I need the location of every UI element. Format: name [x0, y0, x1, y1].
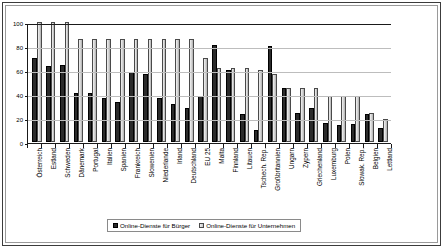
chart-screenshot: 020406080100 ÖsterreichEstlandSchwedenDä…	[0, 0, 443, 248]
legend-swatch-icon	[199, 223, 204, 228]
bar-group	[210, 24, 224, 142]
x-tick-label: Italien	[107, 148, 113, 165]
bar-group	[85, 24, 99, 142]
bar-group	[127, 24, 141, 142]
x-tick-label: Großbritannien	[275, 148, 281, 191]
bar-business	[217, 68, 222, 142]
gridline-60	[28, 72, 391, 73]
bar-business	[245, 68, 250, 142]
bar-business	[383, 119, 388, 142]
x-tick-label: EU 25	[205, 148, 211, 166]
x-tick-label: Estland	[51, 148, 57, 169]
bar-group	[307, 24, 321, 142]
bar-business	[106, 39, 111, 142]
bar-business	[258, 70, 263, 142]
bar-group	[72, 24, 86, 142]
x-tick-label: Schweden	[65, 148, 71, 178]
x-tick-label: Österreich	[37, 148, 43, 177]
x-tick-label: Slowak. Rep.	[359, 148, 365, 186]
gridline-40	[28, 96, 391, 97]
bar-groups	[29, 24, 391, 142]
bar-business	[231, 68, 236, 142]
bar-business	[65, 22, 70, 142]
y-tick-label-20: 20	[16, 117, 23, 123]
x-tick-label: Portugal	[93, 148, 99, 172]
bar-group	[155, 24, 169, 142]
bar-group	[321, 24, 335, 142]
x-tick-label: Finnland	[233, 148, 239, 173]
bar-business	[203, 58, 208, 142]
plot-area-wrapper	[27, 24, 391, 144]
x-tick-label: Lettland	[387, 148, 393, 171]
x-tick-label: Litauen	[247, 148, 253, 169]
x-tick-label: Spanien	[121, 148, 127, 171]
bar-business	[175, 39, 180, 142]
bar-group	[279, 24, 293, 142]
x-tick-label: Zypern	[303, 148, 309, 168]
bar-group	[99, 24, 113, 142]
bar-business	[37, 22, 42, 142]
bar-group	[376, 24, 390, 142]
legend-swatch-icon	[113, 223, 118, 228]
bar-business	[369, 113, 374, 142]
x-tick-label: Irland	[177, 148, 183, 164]
gridline-100	[28, 24, 391, 25]
x-tick-label: Deutschland	[191, 148, 197, 184]
y-tick-label-100: 100	[13, 21, 23, 27]
bar-group	[265, 24, 279, 142]
bar-business	[189, 39, 194, 142]
bar-group	[168, 24, 182, 142]
bar-group	[224, 24, 238, 142]
bar-group	[238, 24, 252, 142]
y-tick-label-80: 80	[16, 45, 23, 51]
y-axis: 020406080100	[0, 24, 25, 144]
bar-group	[58, 24, 72, 142]
y-tick-label-0: 0	[20, 141, 23, 147]
x-axis-labels: ÖsterreichEstlandSchwedenDänemarkPortuga…	[27, 148, 391, 214]
gridline-80	[28, 48, 391, 49]
x-tick-label: Slowenien	[149, 148, 155, 178]
x-tick-label: Dänemark	[79, 148, 85, 177]
x-tick-label: Frankreich	[135, 148, 141, 178]
bar-group	[293, 24, 307, 142]
x-tick-label: Polen	[345, 148, 351, 164]
bar-group	[335, 24, 349, 142]
legend-label: Online-Dienste für Unternehmen	[206, 222, 295, 229]
legend-item: Online-Dienste für Bürger	[113, 222, 190, 229]
y-tick-label-40: 40	[16, 93, 23, 99]
gridline-20	[28, 120, 391, 121]
bar-group	[362, 24, 376, 142]
bar-group	[113, 24, 127, 142]
bar-business	[51, 22, 56, 142]
x-tick-label: Tschech. Rep.	[261, 148, 267, 189]
bar-group	[348, 24, 362, 142]
y-tick-label-60: 60	[16, 69, 23, 75]
legend-label: Online-Dienste für Bürger	[120, 222, 190, 229]
bar-business	[162, 39, 167, 142]
x-tick-label: Niederlande	[163, 148, 169, 182]
bar-group	[30, 24, 44, 142]
x-tick-label: Malta	[219, 148, 225, 164]
bar-group	[141, 24, 155, 142]
bar-business	[92, 39, 97, 142]
bar-business	[134, 39, 139, 142]
bar-business	[272, 74, 277, 142]
x-tick-label: Belgien	[373, 148, 379, 169]
bar-business	[120, 39, 125, 142]
bar-group	[252, 24, 266, 142]
bar-business	[78, 39, 83, 142]
bar-group	[44, 24, 58, 142]
bar-group	[182, 24, 196, 142]
bar-group	[196, 24, 210, 142]
plot-area	[27, 24, 391, 144]
chart-legend: Online-Dienste für BürgerOnline-Dienste …	[107, 219, 301, 232]
bar-business	[148, 39, 153, 142]
x-tick-label: Luxemburg	[331, 148, 337, 180]
legend-item: Online-Dienste für Unternehmen	[199, 222, 295, 229]
x-tick-label: Ungarn	[289, 148, 295, 169]
x-tick-label: Griechenland	[317, 148, 323, 186]
